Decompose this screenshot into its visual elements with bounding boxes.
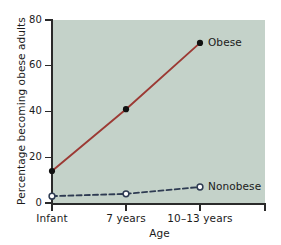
x-axis-title: Age (0, 227, 281, 239)
data-point-marker (49, 193, 55, 199)
data-point-marker (49, 168, 55, 174)
y-axis-title: Percentage becoming obese adults (15, 16, 27, 206)
data-point-marker (123, 191, 129, 197)
data-point-marker (123, 106, 129, 112)
chart-figure: 020406080 Infant7 years10–13 years Obese… (0, 0, 281, 245)
data-point-marker (197, 184, 203, 190)
series-label-nonobese: Nonobese (208, 181, 261, 192)
data-point-marker (197, 40, 203, 46)
series-label-obese: Obese (208, 37, 242, 48)
